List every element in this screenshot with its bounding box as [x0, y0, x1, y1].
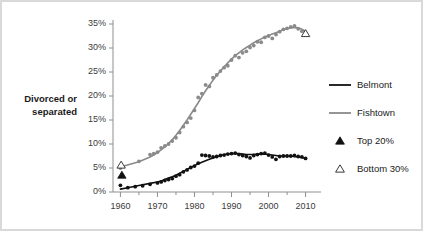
- data-point-belmont: [196, 161, 200, 165]
- data-point-belmont: [244, 155, 248, 159]
- y-axis-title-line1: Divorced or: [24, 93, 77, 104]
- x-tick-label: 2010: [296, 201, 316, 211]
- series-group: [119, 24, 308, 190]
- y-tick-label: 10%: [88, 138, 106, 148]
- chart-figure: Divorced or separated 0%5%10%15%20%25%30…: [0, 0, 423, 231]
- data-point-fishtown: [211, 76, 215, 80]
- data-point-fishtown: [263, 36, 267, 40]
- data-point-fishtown: [289, 25, 293, 29]
- data-point-fishtown: [170, 139, 174, 143]
- data-point-fishtown: [189, 116, 193, 120]
- data-point-belmont: [141, 184, 145, 188]
- data-point-fishtown: [219, 69, 223, 73]
- data-point-belmont: [207, 154, 211, 158]
- plot-area: Divorced or separated 0%5%10%15%20%25%30…: [2, 2, 423, 231]
- data-point-belmont: [185, 168, 189, 172]
- data-point-belmont: [248, 156, 252, 160]
- y-tick-label: 0%: [93, 186, 106, 196]
- data-point-belmont: [237, 153, 241, 157]
- data-point-belmont: [304, 157, 308, 161]
- data-point-fishtown: [241, 51, 245, 55]
- y-tick-label: 20%: [88, 90, 106, 100]
- y-tick-label: 5%: [93, 162, 106, 172]
- data-point-belmont: [163, 179, 167, 183]
- data-point-belmont: [148, 182, 152, 186]
- legend-label: Fishtown: [357, 107, 395, 118]
- legend-label: Bottom 30%: [357, 163, 409, 174]
- data-point-belmont: [259, 152, 263, 156]
- data-point-belmont: [215, 155, 219, 159]
- data-point-belmont: [167, 178, 171, 182]
- data-point-belmont: [263, 151, 267, 155]
- data-point-fishtown: [152, 152, 156, 156]
- data-point-fishtown: [252, 44, 256, 48]
- data-point-fishtown: [285, 26, 289, 30]
- x-tick-label: 2000: [259, 201, 279, 211]
- bottom-30-marker: [117, 161, 125, 168]
- data-point-belmont: [285, 154, 289, 158]
- x-tick-label: 1990: [222, 201, 242, 211]
- data-point-belmont: [230, 152, 234, 156]
- data-point-belmont: [281, 154, 285, 158]
- data-point-fishtown: [278, 30, 282, 34]
- legend-swatch-bottom-30: [336, 165, 345, 172]
- data-point-belmont: [222, 153, 226, 157]
- data-point-belmont: [256, 153, 260, 157]
- data-point-fishtown: [237, 56, 241, 60]
- data-point-belmont: [200, 153, 204, 157]
- data-point-fishtown: [248, 46, 252, 50]
- data-point-belmont: [204, 154, 208, 158]
- data-point-belmont: [296, 155, 300, 159]
- data-point-belmont: [193, 164, 197, 168]
- data-point-belmont: [278, 155, 282, 159]
- data-point-belmont: [156, 181, 160, 185]
- chart-legend: BelmontFishtownTop 20%Bottom 30%: [329, 79, 409, 174]
- data-point-fishtown: [207, 85, 211, 89]
- data-point-fishtown: [156, 150, 160, 154]
- data-point-belmont: [219, 154, 223, 158]
- y-axis-title-line2: separated: [32, 106, 77, 117]
- data-point-fishtown: [226, 64, 230, 68]
- data-point-belmont: [211, 155, 215, 159]
- data-point-fishtown: [274, 33, 278, 37]
- data-point-belmont: [189, 166, 193, 170]
- data-point-belmont: [178, 173, 182, 177]
- data-point-belmont: [174, 174, 178, 178]
- data-point-fishtown: [244, 49, 248, 53]
- legend-label: Top 20%: [357, 135, 395, 146]
- data-point-fishtown: [137, 159, 141, 163]
- data-point-fishtown: [256, 40, 260, 44]
- data-point-belmont: [300, 155, 304, 159]
- divorced-or-separated-chart: Divorced or separated 0%5%10%15%20%25%30…: [2, 2, 423, 231]
- y-axis-title: Divorced or separated: [24, 93, 77, 117]
- data-point-fishtown: [181, 125, 185, 129]
- data-point-fishtown: [293, 24, 297, 28]
- data-point-belmont: [252, 154, 256, 158]
- data-point-belmont: [226, 152, 230, 156]
- data-point-belmont: [267, 153, 271, 157]
- data-point-belmont: [181, 170, 185, 174]
- y-tick-label: 30%: [88, 42, 106, 52]
- top-20-marker: [118, 171, 126, 178]
- axes-group: 0%5%10%15%20%25%30%35%196019701980199020…: [88, 18, 321, 211]
- data-point-belmont: [126, 186, 130, 190]
- data-point-fishtown: [215, 73, 219, 77]
- data-point-fishtown: [159, 146, 163, 150]
- data-point-belmont: [274, 157, 278, 161]
- trend-line-fishtown: [120, 27, 305, 167]
- data-point-fishtown: [300, 29, 304, 33]
- data-point-belmont: [293, 154, 297, 158]
- data-point-belmont: [119, 183, 123, 187]
- y-tick-label: 35%: [88, 18, 106, 28]
- data-point-fishtown: [200, 92, 204, 96]
- y-tick-label: 15%: [88, 114, 106, 124]
- data-point-fishtown: [270, 37, 274, 41]
- data-point-fishtown: [267, 34, 271, 38]
- x-tick-label: 1980: [184, 201, 204, 211]
- data-point-fishtown: [196, 96, 200, 100]
- data-point-fishtown: [296, 27, 300, 31]
- data-point-fishtown: [233, 54, 237, 58]
- data-point-fishtown: [148, 153, 152, 157]
- trend-line-belmont: [120, 154, 305, 190]
- data-point-fishtown: [204, 83, 208, 87]
